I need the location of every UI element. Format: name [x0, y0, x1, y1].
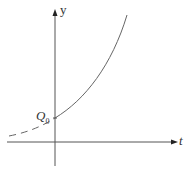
- t-axis-label: t: [179, 133, 183, 149]
- curve-solid-positive-t: [55, 15, 127, 118]
- y-axis-arrowhead-icon: [53, 9, 58, 16]
- intercept-label: Q0: [36, 108, 49, 126]
- intercept-label-sub: 0: [45, 117, 49, 126]
- chart-canvas: [0, 0, 193, 174]
- intercept-label-main: Q: [36, 108, 45, 123]
- y-axis-label: y: [60, 2, 67, 18]
- t-axis-arrowhead-icon: [171, 140, 178, 145]
